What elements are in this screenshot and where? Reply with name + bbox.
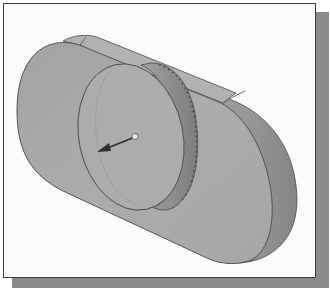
cad-model-illustration [3,3,316,278]
arrow-origin-sphere [132,134,138,140]
figure-frame [3,3,316,278]
figure-stage [0,0,330,288]
